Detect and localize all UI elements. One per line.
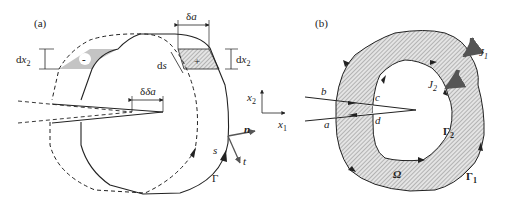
plus-sign: + bbox=[194, 55, 200, 67]
axis-x1-label: x1 bbox=[277, 118, 287, 133]
normal-n-label: n bbox=[244, 123, 250, 135]
point-b-label: b bbox=[321, 85, 327, 97]
original-contour-dashed bbox=[50, 34, 198, 193]
original-crack-lower bbox=[18, 112, 132, 123]
point-c-label: c bbox=[375, 91, 380, 103]
tangent-vector-t bbox=[228, 136, 240, 163]
j-integral-diagram: (a) - + δδa δa dx2 bbox=[0, 0, 505, 203]
dx2-right-label: dx2 bbox=[236, 53, 250, 68]
inner-arrow-1-icon bbox=[381, 75, 386, 84]
delta-a-top-label: δa bbox=[186, 10, 197, 22]
minus-sign: - bbox=[82, 53, 86, 65]
gamma-label: Γ bbox=[212, 172, 218, 184]
gamma1-label: Γ1 bbox=[466, 170, 477, 185]
arc-s-label: s bbox=[213, 144, 217, 156]
ds-label: ds bbox=[157, 59, 167, 71]
crack-face-upper bbox=[52, 104, 163, 112]
normal-vector-n bbox=[228, 131, 255, 136]
j1-label: J1 bbox=[479, 46, 488, 61]
point-a-label: a bbox=[324, 118, 330, 130]
panel-b-label: (b) bbox=[315, 17, 328, 30]
gamma-contour-arrow-icon bbox=[220, 150, 227, 162]
dx2-left-label: dx2 bbox=[16, 53, 30, 68]
panel-a-label: (a) bbox=[34, 17, 47, 30]
point-d-label: d bbox=[375, 114, 381, 126]
panel-a: (a) - + δδa δa dx2 bbox=[16, 10, 287, 194]
panel-b: (b) J1 J2 b a c d Γ2 Γ1 Ω bbox=[305, 17, 488, 191]
axis-x2-label: x2 bbox=[246, 91, 256, 106]
crack-face-lower bbox=[52, 112, 163, 123]
original-crack-upper bbox=[18, 101, 132, 112]
omega-label: Ω bbox=[393, 168, 402, 180]
j2-label: J2 bbox=[428, 78, 437, 93]
tangent-t-label: t bbox=[243, 155, 247, 167]
delta-a-tip-label: δδa bbox=[140, 85, 156, 97]
